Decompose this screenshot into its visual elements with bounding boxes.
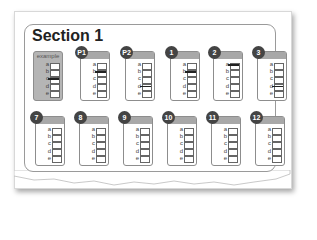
option-label: d	[268, 148, 271, 154]
answer-card-q1: 1abcde	[170, 51, 200, 101]
option-row-a: a	[260, 127, 282, 134]
option-row-e: e	[172, 156, 194, 163]
answer-checkbox[interactable]	[274, 91, 284, 98]
option-label: b	[180, 133, 183, 139]
answer-checkbox[interactable]	[96, 156, 106, 163]
option-label: c	[270, 75, 273, 81]
option-label: e	[183, 90, 186, 96]
option-label: c	[180, 140, 183, 146]
option-row-b: b	[128, 134, 150, 141]
pencil-mark	[95, 71, 106, 73]
answer-card-q10: 10abcde	[167, 116, 197, 166]
answer-card-q12: 12abcde	[255, 116, 285, 166]
question-number-badge: 3	[252, 46, 265, 59]
option-row-d: d	[40, 149, 62, 156]
option-label: a	[180, 126, 183, 132]
answer-checkbox[interactable]	[184, 156, 194, 163]
option-row-d: d	[260, 149, 282, 156]
option-row-b: b	[84, 134, 106, 141]
option-label: a	[138, 61, 141, 67]
pencil-mark	[272, 86, 283, 88]
option-row-a: a	[40, 127, 62, 134]
option-row-b: b	[38, 69, 60, 76]
option-row-a: a	[218, 62, 240, 69]
answer-card-example: exampleabcde	[33, 51, 63, 101]
question-number-badge: 10	[162, 111, 175, 124]
option-label: c	[268, 140, 271, 146]
option-label: b	[46, 68, 49, 74]
option-row-b: b	[262, 69, 284, 76]
option-row-e: e	[175, 91, 197, 98]
option-row-a: a	[172, 127, 194, 134]
option-label: d	[226, 83, 229, 89]
option-row-d: d	[175, 84, 197, 91]
option-label: b	[224, 133, 227, 139]
option-row-e: e	[130, 91, 152, 98]
option-label: e	[136, 155, 139, 161]
option-row-d: d	[85, 84, 107, 91]
answer-card-q7: 7abcde	[35, 116, 65, 166]
answer-card-q11: 11abcde	[211, 116, 241, 166]
question-number-badge: 12	[250, 111, 263, 124]
option-row-c: c	[84, 141, 106, 148]
example-label: example	[34, 53, 62, 59]
answer-checkbox[interactable]	[272, 156, 282, 163]
option-label: a	[183, 61, 186, 67]
option-row-a: a	[175, 62, 197, 69]
answer-checkbox[interactable]	[97, 91, 107, 98]
option-row-a: a	[130, 62, 152, 69]
option-row-e: e	[40, 156, 62, 163]
option-row-c: c	[260, 141, 282, 148]
option-label: c	[138, 75, 141, 81]
option-row-e: e	[260, 156, 282, 163]
answer-checkbox[interactable]	[230, 91, 240, 98]
option-row-e: e	[262, 91, 284, 98]
option-label: a	[270, 61, 273, 67]
option-label: e	[46, 90, 49, 96]
option-row-b: b	[260, 134, 282, 141]
option-label: d	[136, 148, 139, 154]
option-label: b	[92, 133, 95, 139]
question-number-badge: 2	[208, 46, 221, 59]
option-row-a: a	[128, 127, 150, 134]
option-label: a	[92, 126, 95, 132]
option-label: a	[48, 126, 51, 132]
option-row-c: c	[175, 76, 197, 83]
question-number-badge: 7	[30, 111, 43, 124]
torn-edge	[14, 170, 294, 192]
option-row-c: c	[262, 76, 284, 83]
answer-card-q8: 8abcde	[79, 116, 109, 166]
option-row-b: b	[218, 69, 240, 76]
option-label: e	[268, 155, 271, 161]
option-row-c: c	[40, 141, 62, 148]
option-row-d: d	[218, 84, 240, 91]
option-label: b	[268, 133, 271, 139]
option-label: b	[270, 68, 273, 74]
question-number-badge: 11	[206, 111, 219, 124]
option-row-c: c	[130, 76, 152, 83]
answer-card-q3: 3abcde	[257, 51, 287, 101]
option-label: d	[46, 83, 49, 89]
option-row-b: b	[40, 134, 62, 141]
option-row-d: d	[262, 84, 284, 91]
answer-checkbox[interactable]	[187, 91, 197, 98]
answer-card-p1: P1abcde	[80, 51, 110, 101]
option-row-d: d	[84, 149, 106, 156]
answer-checkbox[interactable]	[52, 156, 62, 163]
option-row-e: e	[84, 156, 106, 163]
option-row-d: d	[216, 149, 238, 156]
option-row-a: a	[262, 62, 284, 69]
answer-checkbox[interactable]	[142, 91, 152, 98]
option-label: c	[183, 75, 186, 81]
option-label: e	[224, 155, 227, 161]
option-row-c: c	[218, 76, 240, 83]
answer-checkbox[interactable]	[140, 156, 150, 163]
option-label: b	[138, 68, 141, 74]
answer-checkbox[interactable]	[50, 91, 60, 98]
option-label: c	[93, 75, 96, 81]
option-label: a	[136, 126, 139, 132]
option-row-c: c	[38, 76, 60, 83]
option-label: c	[224, 140, 227, 146]
answer-checkbox[interactable]	[228, 156, 238, 163]
answer-card-p2: P2abcde	[125, 51, 155, 101]
